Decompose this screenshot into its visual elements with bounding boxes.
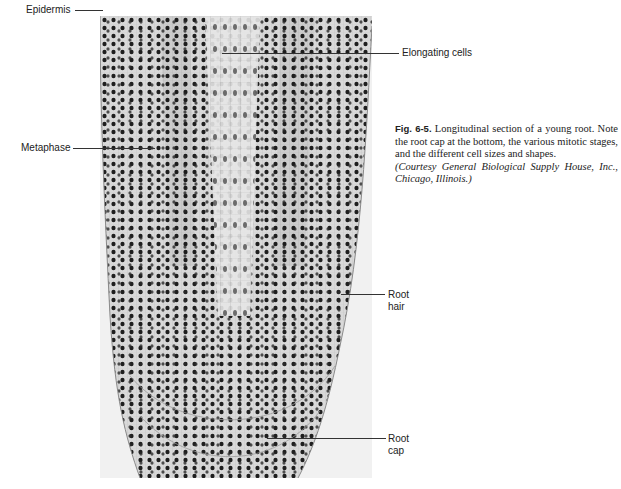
label-metaphase: Metaphase: [21, 142, 70, 154]
label-elongating-cells: Elongating cells: [402, 47, 472, 59]
root-micrograph: [100, 16, 372, 478]
label-root-hair-line2: hair: [388, 301, 405, 313]
label-root-cap-line1: Root: [388, 433, 409, 445]
root-tissue-illustration: [100, 16, 372, 478]
leader-line-root-cap: [267, 438, 386, 439]
leader-line-elongating-cells: [222, 53, 399, 54]
leader-line-epidermis: [75, 10, 103, 11]
leader-line-metaphase: [73, 148, 155, 149]
figure-caption: Fig. 6-5. Longitudinal section of a youn…: [395, 123, 618, 186]
figure-credit: (Courtesy General Biological Supply Hous…: [395, 161, 618, 186]
label-root-cap-line2: cap: [388, 445, 404, 457]
figure-number: Fig. 6-5.: [395, 123, 432, 134]
leader-line-root-hair: [341, 294, 385, 295]
label-root-hair-line1: Root: [388, 289, 409, 301]
label-epidermis: Epidermis: [26, 4, 70, 16]
